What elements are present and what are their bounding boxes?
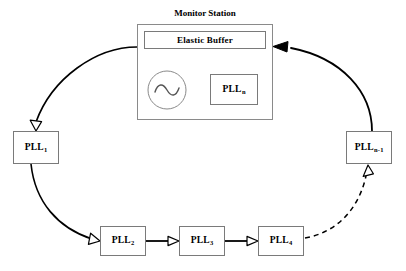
node-pll-3: PLL3 bbox=[179, 226, 225, 256]
elastic-buffer-box: Elastic Buffer bbox=[144, 31, 266, 49]
arrowhead-pll2-to-pll3 bbox=[168, 236, 179, 245]
oscillator-symbol bbox=[147, 70, 187, 110]
node-pll-n-1: PLLn-1 bbox=[346, 131, 392, 164]
arrowhead-plln1-to-station bbox=[273, 42, 288, 53]
node-pll-2: PLL2 bbox=[100, 226, 146, 256]
arrowhead-pll3-to-pll4 bbox=[247, 236, 258, 245]
node-pll-4: PLL4 bbox=[258, 226, 304, 256]
node-pll-n-1-label: PLLn-1 bbox=[355, 143, 384, 153]
node-pll-1-label: PLL1 bbox=[25, 143, 48, 153]
node-pll-n-label: PLLn bbox=[223, 85, 246, 95]
arrowhead-station-to-pll1 bbox=[30, 120, 41, 131]
monitor-station-title: Monitor Station bbox=[137, 8, 273, 18]
node-pll-1: PLL1 bbox=[13, 131, 59, 164]
node-pll-4-label: PLL4 bbox=[270, 236, 293, 246]
node-pll-3-label: PLL3 bbox=[191, 236, 214, 246]
elastic-buffer-label: Elastic Buffer bbox=[177, 36, 233, 45]
pll-ring-diagram: Monitor Station Elastic Buffer PLLn PLL1… bbox=[0, 0, 406, 271]
edge-pll1-to-pll2 bbox=[31, 164, 92, 239]
edge-plln1-to-station bbox=[291, 48, 372, 131]
edge-station-to-pll1 bbox=[36, 47, 137, 122]
edge-pll4-to-plln1 bbox=[305, 176, 366, 238]
node-pll-n: PLLn bbox=[210, 74, 258, 105]
node-pll-2-label: PLL2 bbox=[112, 236, 135, 246]
arrowhead-pll1-to-pll2 bbox=[88, 233, 100, 244]
arrowhead-pll4-to-plln1 bbox=[363, 165, 373, 176]
